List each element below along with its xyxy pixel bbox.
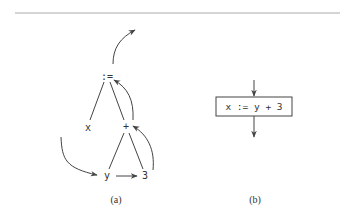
caption-b: (b) <box>249 194 261 206</box>
node-plus: + <box>123 121 129 132</box>
figure-canvas: := x + y 3 (a) x := y + 3 (b) <box>0 0 353 218</box>
node-x: x <box>85 122 91 133</box>
arrow-entry-to-y <box>61 137 97 175</box>
panel-a-tree: := x + y 3 (a) <box>61 30 153 206</box>
panel-b-flowchart: x := y + 3 (b) <box>216 80 292 206</box>
node-y: y <box>104 170 110 181</box>
arrow-3-to-plus <box>133 126 153 170</box>
edge-plus-3 <box>129 133 143 169</box>
statement-text: x := y + 3 <box>225 101 282 112</box>
arrow-assign-exit <box>113 30 135 64</box>
edge-assign-x <box>90 82 104 120</box>
caption-a: (a) <box>110 194 121 206</box>
edge-plus-y <box>109 133 124 169</box>
edge-assign-plus <box>110 82 124 120</box>
node-3: 3 <box>142 170 148 181</box>
node-assign: := <box>101 71 113 82</box>
